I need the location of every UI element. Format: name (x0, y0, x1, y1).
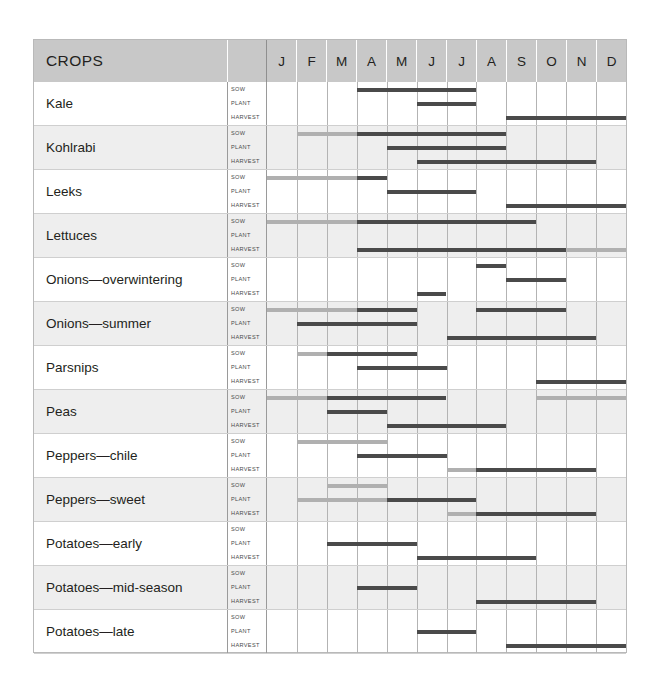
lane-harvest (267, 375, 626, 389)
stage-label-harvest: HARVEST (231, 111, 266, 125)
crop-name-cell: Kale (34, 82, 228, 126)
timeline-lanes (267, 522, 626, 565)
month-header-m-2: M (327, 40, 357, 82)
month-header-j-0: J (267, 40, 297, 82)
stage-label-plant: PLANT (231, 404, 266, 418)
month-header-d-11: D (597, 40, 627, 82)
stage-label-sow: SOW (231, 126, 266, 140)
timeline-lanes (267, 214, 626, 257)
period-bar-plant (417, 630, 477, 634)
timeline-cell (267, 126, 627, 170)
lane-sow (267, 171, 626, 185)
table-row: Onions—overwinteringSOWPLANTHARVEST (34, 258, 626, 302)
stage-label-plant: PLANT (231, 536, 266, 550)
crop-name-cell: Potatoes—mid-season (34, 566, 228, 610)
stage-label-plant: PLANT (231, 448, 266, 462)
lane-plant (267, 185, 626, 199)
period-bar-harvest (476, 512, 596, 516)
stage-label-plant: PLANT (231, 184, 266, 198)
lane-harvest (267, 595, 626, 609)
stage-label-sow: SOW (231, 346, 266, 360)
period-bar-harvest (506, 204, 626, 208)
lane-sow (267, 259, 626, 273)
stage-label-sow: SOW (231, 302, 266, 316)
lane-harvest (267, 507, 626, 521)
table-row: KohlrabiSOWPLANTHARVEST (34, 126, 626, 170)
stage-label-plant: PLANT (231, 580, 266, 594)
stage-label-harvest: HARVEST (231, 419, 266, 433)
stage-labels-cell: SOWPLANTHARVEST (228, 258, 267, 302)
timeline-cell (267, 214, 627, 258)
month-header-o-9: O (537, 40, 567, 82)
timeline-cell (267, 522, 627, 566)
period-bar-harvest (417, 556, 537, 560)
timeline-cell (267, 170, 627, 214)
stage-label-sow: SOW (231, 214, 266, 228)
table-row: Peppers—sweetSOWPLANTHARVEST (34, 478, 626, 522)
timeline-cell (267, 478, 627, 522)
stage-label-harvest: HARVEST (231, 199, 266, 213)
timeline-lanes (267, 566, 626, 609)
lane-plant (267, 449, 626, 463)
stage-labels-cell: SOWPLANTHARVEST (228, 214, 267, 258)
stage-label-harvest: HARVEST (231, 243, 266, 257)
period-bar-plant (506, 278, 566, 282)
stage-label-sow: SOW (231, 478, 266, 492)
stage-label-harvest: HARVEST (231, 507, 266, 521)
stage-label-sow: SOW (231, 82, 266, 96)
period-bar-harvest (417, 292, 447, 296)
stage-label-sow: SOW (231, 610, 266, 624)
period-bar-sow (357, 132, 507, 136)
period-bar-plant (387, 190, 477, 194)
timeline-lanes (267, 82, 626, 125)
timeline-lanes (267, 170, 626, 213)
stage-label-sow: SOW (231, 170, 266, 184)
stage-label-sow: SOW (231, 390, 266, 404)
stage-label-sow: SOW (231, 434, 266, 448)
period-bar-plant (357, 454, 447, 458)
stage-label-plant: PLANT (231, 624, 266, 638)
stage-labels-cell: SOWPLANTHARVEST (228, 522, 267, 566)
period-bar-plant (297, 498, 387, 502)
period-bar-harvest (476, 600, 596, 604)
timeline-lanes (267, 390, 626, 433)
period-bar-sow (327, 484, 387, 488)
crop-name-cell: Peppers—chile (34, 434, 228, 478)
timeline-cell (267, 610, 627, 654)
lane-harvest (267, 463, 626, 477)
lane-plant (267, 581, 626, 595)
lane-sow (267, 391, 626, 405)
period-bar-sow (357, 220, 537, 224)
timeline-cell (267, 566, 627, 610)
stage-label-harvest: HARVEST (231, 551, 266, 565)
timeline-lanes (267, 478, 626, 521)
stage-label-plant: PLANT (231, 360, 266, 374)
period-bar-harvest (447, 468, 477, 472)
month-header-f-1: F (297, 40, 327, 82)
crop-name-cell: Lettuces (34, 214, 228, 258)
stage-label-sow: SOW (231, 258, 266, 272)
lane-plant (267, 405, 626, 419)
period-bar-harvest (447, 512, 477, 516)
stage-column-header (228, 40, 267, 82)
lane-harvest (267, 155, 626, 169)
month-header-j-5: J (417, 40, 447, 82)
stage-label-plant: PLANT (231, 492, 266, 506)
lane-plant (267, 493, 626, 507)
period-bar-harvest (536, 380, 626, 384)
stage-labels-cell: SOWPLANTHARVEST (228, 346, 267, 390)
period-bar-sow (297, 352, 327, 356)
stage-labels-cell: SOWPLANTHARVEST (228, 126, 267, 170)
stage-label-sow: SOW (231, 566, 266, 580)
period-bar-plant (297, 322, 417, 326)
crop-name-cell: Onions—overwintering (34, 258, 228, 302)
month-header-s-8: S (507, 40, 537, 82)
month-header-n-10: N (567, 40, 597, 82)
stage-label-harvest: HARVEST (231, 155, 266, 169)
stage-label-plant: PLANT (231, 316, 266, 330)
stage-labels-cell: SOWPLANTHARVEST (228, 302, 267, 346)
crop-name-cell: Parsnips (34, 346, 228, 390)
period-bar-sow (267, 308, 357, 312)
stage-label-harvest: HARVEST (231, 375, 266, 389)
timeline-cell (267, 390, 627, 434)
